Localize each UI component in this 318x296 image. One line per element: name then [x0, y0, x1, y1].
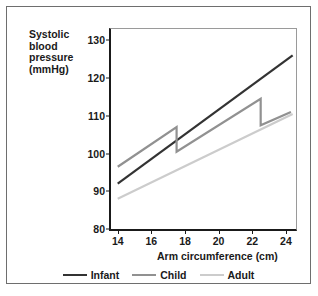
x-tick-mark [118, 229, 119, 234]
y-tick-label: 100 [87, 148, 105, 160]
x-tick-mark [252, 229, 253, 234]
x-tick-label: 18 [179, 235, 191, 247]
plot-area: 8090100110120130 141618202224 [109, 28, 297, 231]
y-axis-title-line-4: (mmHg) [29, 64, 91, 76]
y-axis-title-line-3: pressure [29, 52, 91, 64]
x-tick-mark [151, 229, 152, 234]
figure-panel: Systolic blood pressure (mmHg) 809010011… [6, 6, 311, 284]
x-tick-label: 24 [280, 235, 292, 247]
y-tick-label: 130 [87, 34, 105, 46]
legend-swatch-adult-icon [200, 274, 224, 276]
legend-swatch-child-icon [132, 274, 156, 276]
legend-swatch-infant-icon [63, 274, 87, 276]
series-line-infant [118, 55, 293, 183]
series-lines [111, 29, 296, 229]
x-tick-mark [219, 229, 220, 234]
y-tick-label: 110 [88, 110, 105, 122]
y-tick-label: 80 [93, 223, 105, 235]
x-tick-label: 14 [112, 235, 124, 247]
y-tick-label: 120 [87, 72, 105, 84]
x-tick-mark [185, 229, 186, 234]
legend-label: Adult [228, 269, 255, 281]
y-axis-title-line-1: Systolic [29, 29, 91, 41]
y-tick-label: 90 [93, 185, 105, 197]
chart-legend: InfantChildAdult [7, 269, 310, 281]
x-tick-label: 20 [213, 235, 225, 247]
x-tick-mark [286, 229, 287, 234]
series-line-adult [118, 114, 293, 199]
legend-label: Infant [91, 269, 120, 281]
x-axis-title: Arm circumference (cm) [157, 250, 278, 262]
legend-item-adult[interactable]: Adult [200, 269, 255, 281]
x-tick-label: 16 [146, 235, 158, 247]
y-axis-title: Systolic blood pressure (mmHg) [29, 29, 91, 75]
x-tick-label: 22 [246, 235, 258, 247]
legend-item-child[interactable]: Child [132, 269, 186, 281]
legend-label: Child [160, 269, 186, 281]
legend-item-infant[interactable]: Infant [63, 269, 120, 281]
